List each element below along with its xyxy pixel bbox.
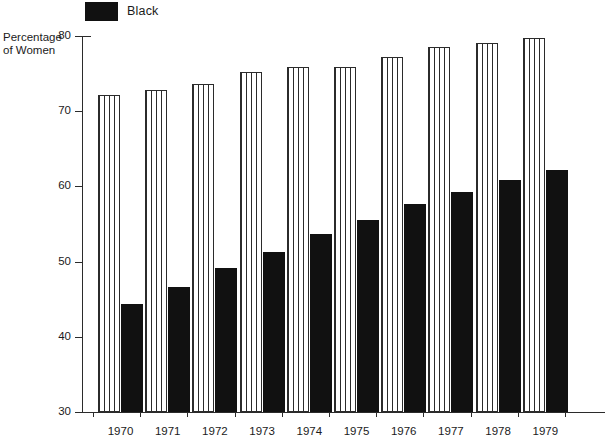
- y-tick-label-60: 60: [58, 179, 71, 192]
- y-tick-40: 40: [75, 337, 83, 338]
- percentage-of-women-bar-chart: Black Percentage of Women 304050607080 1…: [0, 0, 615, 444]
- x-label-1978: 1978: [485, 425, 511, 438]
- x-tick-1976: [376, 412, 377, 417]
- x-label-1970: 1970: [108, 425, 134, 438]
- bar-black-1978: [499, 180, 521, 412]
- bar-black-1973: [263, 252, 285, 412]
- x-label-1979: 1979: [533, 425, 559, 438]
- x-label-1974: 1974: [297, 425, 323, 438]
- x-label-1971: 1971: [155, 425, 181, 438]
- bar-black-1970: [121, 304, 143, 412]
- bar-black-1977: [451, 192, 473, 412]
- x-label-1976: 1976: [391, 425, 417, 438]
- x-tick-1973: [235, 412, 236, 417]
- bar-white-1976: [381, 57, 403, 412]
- bar-black-1976: [404, 204, 426, 412]
- y-tick-label-30: 30: [58, 405, 71, 418]
- x-tick-1972: [187, 412, 188, 417]
- x-axis-line: [82, 412, 605, 413]
- bar-black-1974: [310, 234, 332, 412]
- y-tick-label-50: 50: [58, 255, 71, 268]
- x-tick-1970: [93, 412, 94, 417]
- x-tick-1979: [518, 412, 519, 417]
- chart-legend: Black: [85, 0, 159, 22]
- bar-white-1975: [334, 67, 356, 412]
- plot-area: 304050607080 197019711972197319741975197…: [82, 36, 605, 412]
- bar-black-1972: [215, 268, 237, 412]
- y-tick-label-40: 40: [58, 330, 71, 343]
- x-tick-1975: [329, 412, 330, 417]
- y-tick-label-80: 80: [58, 29, 71, 42]
- x-tick-1974: [282, 412, 283, 417]
- y-axis-line: [82, 36, 83, 413]
- y-tick-50: 50: [75, 262, 83, 263]
- bar-white-1972: [192, 84, 214, 412]
- bar-white-1979: [523, 38, 545, 412]
- x-label-1977: 1977: [438, 425, 464, 438]
- legend-swatch-black-icon: [85, 2, 118, 21]
- bar-white-1978: [476, 43, 498, 412]
- y-tick-60: 60: [75, 186, 83, 187]
- y-tick-70: 70: [75, 111, 83, 112]
- bar-white-1970: [98, 95, 120, 412]
- y-axis-title-line2: of Women: [3, 44, 77, 57]
- x-tick-1971: [140, 412, 141, 417]
- x-tick-1978: [471, 412, 472, 417]
- bar-white-1977: [428, 47, 450, 412]
- x-tick-1977: [423, 412, 424, 417]
- x-tick-end: [565, 412, 566, 417]
- y-tick-30: 30: [75, 412, 83, 413]
- x-label-1973: 1973: [249, 425, 275, 438]
- x-label-1972: 1972: [202, 425, 228, 438]
- bar-white-1973: [240, 72, 262, 412]
- bar-black-1979: [546, 170, 568, 412]
- x-label-1975: 1975: [344, 425, 370, 438]
- bar-black-1975: [357, 220, 379, 413]
- legend-label-black: Black: [127, 5, 159, 18]
- legend-entry-black: Black: [85, 2, 159, 21]
- y-tick-label-70: 70: [58, 104, 71, 117]
- bar-white-1971: [145, 90, 167, 412]
- bar-black-1971: [168, 287, 190, 412]
- bar-white-1974: [287, 67, 309, 412]
- y-tick-80: 80: [75, 36, 83, 37]
- y-axis-top-cap: [82, 36, 91, 37]
